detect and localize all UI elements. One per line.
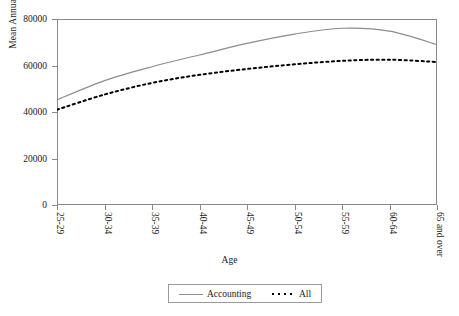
x-axis-title: Age bbox=[0, 255, 459, 265]
x-tick-mark bbox=[152, 205, 153, 210]
y-tick-label: 0 bbox=[42, 200, 47, 210]
x-tick-mark bbox=[105, 205, 106, 210]
chart-legend: Accounting All bbox=[168, 284, 322, 303]
y-tick-label: 80000 bbox=[23, 14, 47, 24]
y-axis-ticks: 020000400006000080000 bbox=[0, 0, 52, 316]
x-tick-mark bbox=[247, 205, 248, 210]
x-tick-label: 65 and over bbox=[435, 212, 445, 257]
chart-plot bbox=[57, 19, 437, 205]
x-tick-mark bbox=[57, 205, 58, 210]
legend-line-dotted-icon bbox=[271, 291, 295, 297]
x-tick-mark bbox=[437, 205, 438, 210]
x-tick-mark bbox=[295, 205, 296, 210]
x-tick-label: 60-64 bbox=[388, 212, 398, 234]
legend-label-accounting: Accounting bbox=[206, 289, 251, 299]
x-tick-mark bbox=[390, 205, 391, 210]
y-tick-label: 40000 bbox=[23, 107, 47, 117]
series-line-accounting bbox=[57, 28, 437, 100]
x-tick-label: 55-59 bbox=[340, 212, 350, 234]
y-tick-label: 60000 bbox=[23, 61, 47, 71]
x-tick-label: 30-34 bbox=[103, 212, 113, 234]
x-tick-label: 45-49 bbox=[245, 212, 255, 234]
x-tick-mark bbox=[342, 205, 343, 210]
x-tick-label: 50-54 bbox=[293, 212, 303, 234]
x-tick-label: 40-44 bbox=[198, 212, 208, 234]
chart-figure: Mean Annual Earnings 0200004000060000800… bbox=[0, 0, 459, 316]
x-tick-label: 35-39 bbox=[150, 212, 160, 234]
y-tick-label: 20000 bbox=[23, 154, 47, 164]
legend-line-solid-icon bbox=[179, 291, 203, 297]
series-line-all bbox=[57, 60, 437, 110]
legend-item-all: All bbox=[271, 289, 311, 299]
x-tick-label: 25-29 bbox=[55, 212, 65, 234]
legend-label-all: All bbox=[298, 289, 311, 299]
x-tick-mark bbox=[200, 205, 201, 210]
legend-item-accounting: Accounting bbox=[179, 289, 251, 299]
